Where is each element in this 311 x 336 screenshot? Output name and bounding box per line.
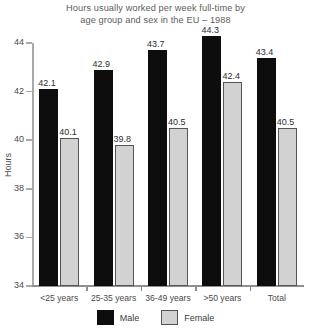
y-tick-mark xyxy=(26,91,32,93)
x-tick-mark xyxy=(250,286,252,291)
x-tick-mark xyxy=(86,286,88,291)
bar-chart-figure: Hours usually worked per week full-time … xyxy=(0,0,311,336)
y-tick-label: 42 xyxy=(2,86,24,96)
y-tick-mark xyxy=(26,42,32,44)
bar-value-label: 43.7 xyxy=(147,39,165,49)
bar-value-label: 40.5 xyxy=(277,117,295,127)
bar-value-label: 44.3 xyxy=(201,24,219,34)
category-label-4: Total xyxy=(268,293,286,303)
y-tick-mark xyxy=(26,285,32,287)
bar-male-2 xyxy=(148,50,167,286)
bar-male-1 xyxy=(94,70,113,286)
category-label-0: <25 years xyxy=(40,293,78,303)
y-tick-mark xyxy=(26,188,32,190)
bar-value-label: 39.8 xyxy=(114,134,132,144)
legend-label: Male xyxy=(120,313,140,323)
legend-label: Female xyxy=(184,313,214,323)
legend-swatch-icon xyxy=(97,310,114,325)
bar-value-label: 42.9 xyxy=(93,58,111,68)
chart-title-line-1: Hours usually worked per week full-time … xyxy=(0,3,311,15)
y-tick-mark xyxy=(26,139,32,141)
plot-area: Hours 343638404244 42.140.142.939.843.74… xyxy=(32,43,304,286)
chart-title-line-2: age group and sex in the EU – 1988 xyxy=(0,15,311,27)
legend-item-female[interactable]: Female xyxy=(161,310,214,325)
bar-male-3 xyxy=(202,36,221,286)
bar-value-label: 40.5 xyxy=(168,117,186,127)
bar-value-label: 40.1 xyxy=(59,126,77,136)
x-tick-mark xyxy=(141,286,143,291)
y-tick-label: 44 xyxy=(2,37,24,47)
bar-female-3 xyxy=(223,82,242,286)
y-tick-label: 36 xyxy=(2,231,24,241)
bar-female-4 xyxy=(278,128,297,286)
category-label-3: >50 years xyxy=(203,293,241,303)
legend-swatch-icon xyxy=(161,310,178,325)
bar-male-4 xyxy=(257,58,276,286)
bar-value-label: 43.4 xyxy=(256,46,274,56)
bar-value-label: 42.1 xyxy=(38,78,56,88)
y-axis-title: Hours xyxy=(3,153,13,177)
y-axis-line xyxy=(32,43,34,286)
y-tick-label: 40 xyxy=(2,134,24,144)
bar-female-2 xyxy=(169,128,188,286)
y-tick-mark xyxy=(26,237,32,239)
bar-female-1 xyxy=(115,145,134,286)
category-label-1: 25-35 years xyxy=(91,293,136,303)
bar-male-0 xyxy=(39,89,58,286)
y-tick-label: 34 xyxy=(2,280,24,290)
bar-value-label: 42.4 xyxy=(222,70,240,80)
chart-legend: MaleFemale xyxy=(0,310,311,325)
y-tick-label: 38 xyxy=(2,183,24,193)
bar-female-0 xyxy=(60,138,79,286)
legend-item-male[interactable]: Male xyxy=(97,310,140,325)
x-tick-mark xyxy=(195,286,197,291)
category-label-2: 36-49 years xyxy=(145,293,190,303)
chart-title: Hours usually worked per week full-time … xyxy=(0,3,311,26)
